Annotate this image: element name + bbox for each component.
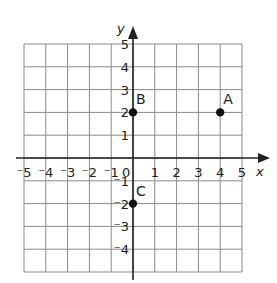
- x-tick-label: 2: [172, 165, 180, 180]
- y-tick-label: ⁻4: [114, 242, 129, 257]
- x-axis-arrow-icon: [258, 153, 270, 163]
- y-axis-title: y: [116, 21, 125, 36]
- y-tick-label: 2: [121, 105, 129, 120]
- x-tick-label: ⁻4: [38, 165, 53, 180]
- point-marker-icon: [129, 199, 137, 207]
- x-tick-label: ⁻2: [82, 165, 97, 180]
- x-tick-label: ⁻3: [60, 165, 75, 180]
- x-tick-label: ⁻5: [16, 165, 31, 180]
- y-tick-label: 5: [121, 37, 129, 52]
- point-marker-icon: [216, 108, 224, 116]
- y-tick-label: 4: [121, 60, 129, 75]
- y-tick-label: 3: [121, 83, 129, 98]
- data-points: ABC: [129, 91, 233, 207]
- y-tick-label: ⁻1: [114, 174, 129, 189]
- x-tick-label: 5: [238, 165, 246, 180]
- point-label: A: [223, 91, 233, 107]
- y-tick-label: ⁻3: [114, 219, 129, 234]
- point-marker-icon: [129, 108, 137, 116]
- point-label: C: [136, 183, 146, 199]
- coordinate-plane: xy ⁻5⁻4⁻3⁻2⁻1012345⁻4⁻3⁻2⁻112345 ABC: [0, 0, 277, 283]
- x-axis-title: x: [255, 164, 264, 179]
- y-tick-label: ⁻2: [114, 197, 129, 212]
- tick-labels: ⁻5⁻4⁻3⁻2⁻1012345⁻4⁻3⁻2⁻112345: [16, 37, 246, 257]
- x-tick-label: 1: [151, 165, 159, 180]
- axes: xy: [16, 21, 270, 280]
- y-axis-arrow-icon: [128, 26, 138, 39]
- x-tick-label: 3: [194, 165, 202, 180]
- y-tick-label: 1: [121, 128, 129, 143]
- point-label: B: [136, 91, 146, 107]
- x-tick-label: 4: [216, 165, 224, 180]
